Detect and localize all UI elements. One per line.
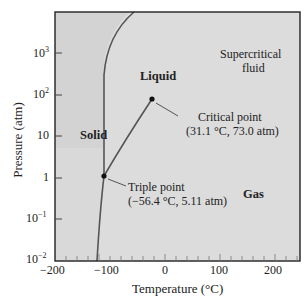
y-tick-10: 10 — [37, 128, 49, 143]
triple-point-values: (−56.4 °C, 5.11 atm) — [128, 194, 227, 209]
y-tick-base: 10 — [26, 211, 38, 225]
y-axis-label: Pressure (atm) — [10, 90, 26, 190]
x-tick-neg200: −200 — [40, 263, 65, 278]
y-tick-1e3: 103 — [33, 45, 49, 61]
x-tick-0: 0 — [162, 263, 168, 278]
region-supercritical-label-2: fluid — [242, 61, 265, 76]
x-tick-neg100: −100 — [94, 263, 119, 278]
region-solid-label: Solid — [80, 128, 107, 143]
triple-point-marker — [101, 173, 106, 178]
y-tick-1e-1: 10−1 — [26, 210, 47, 226]
triple-point-label: Triple point — [128, 180, 185, 195]
critical-point-marker — [149, 96, 154, 101]
y-tick-1: 1 — [43, 170, 49, 185]
y-tick-exp: 2 — [45, 86, 49, 95]
y-tick-exp: −1 — [38, 210, 47, 219]
x-tick-200: 200 — [264, 263, 282, 278]
y-tick-base: 10 — [33, 46, 45, 60]
y-tick-exp: 3 — [45, 45, 49, 54]
critical-point-label: Critical point — [198, 110, 262, 125]
y-tick-base: 10 — [33, 87, 45, 101]
y-tick-1e2: 102 — [33, 86, 49, 102]
critical-point-values: (31.1 °C, 73.0 atm) — [186, 124, 279, 139]
x-tick-100: 100 — [210, 263, 228, 278]
x-axis-label: Temperature (°C) — [132, 281, 223, 297]
region-liquid-label: Liquid — [140, 69, 176, 84]
y-tick-base: 10 — [26, 252, 38, 266]
region-supercritical-label-1: Supercritical — [220, 47, 281, 62]
region-gas-label: Gas — [243, 187, 264, 202]
y-tick-exp: −2 — [38, 251, 47, 260]
